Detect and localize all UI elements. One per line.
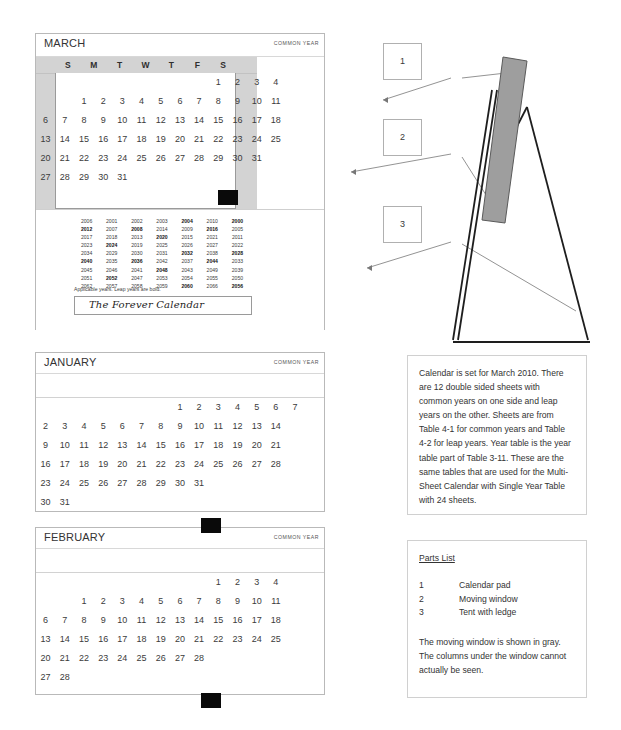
day-cell-empty (209, 668, 228, 687)
day-cell: 8 (151, 417, 170, 436)
parts-list-item: 2Moving window (419, 593, 575, 607)
day-cell-empty (36, 573, 55, 592)
february-month-label: FEBRUARY (44, 531, 105, 543)
day-cell: 30 (36, 493, 55, 512)
callout3-pointer (462, 244, 576, 311)
day-cell-empty (151, 168, 170, 187)
january-calendar-body: 1234567234567891011121314910111213141516… (36, 398, 324, 512)
dow-5: F (184, 57, 210, 73)
callout-box-1[interactable]: 1 (383, 43, 422, 80)
day-cell: 9 (228, 92, 247, 111)
dow-4: T (158, 57, 184, 73)
parts-list-rows: 1Calendar pad2Moving window3Tent with le… (419, 579, 575, 620)
day-cell-empty (228, 168, 247, 187)
day-cell: 6 (36, 111, 55, 130)
day-cell-empty (113, 73, 132, 92)
leader-line-3 (367, 242, 451, 268)
day-cell: 10 (247, 592, 266, 611)
day-cell-empty (74, 668, 93, 687)
leap-year-cell: 2032 (175, 249, 200, 257)
calendar-week-row: 234567891011121314 (36, 417, 324, 436)
common-year-cell: 2001 (99, 217, 124, 225)
common-year-cell: 2055 (200, 274, 225, 282)
day-cell: 13 (170, 611, 189, 630)
day-cell: 17 (113, 130, 132, 149)
day-cell: 5 (247, 398, 266, 417)
common-year-cell: 2034 (74, 249, 99, 257)
common-year-cell: 2023 (74, 241, 99, 249)
day-cell: 23 (228, 130, 247, 149)
day-cell-empty (132, 573, 151, 592)
day-cell-empty (209, 649, 228, 668)
day-cell: 6 (36, 611, 55, 630)
common-year-cell: 2002 (124, 217, 149, 225)
tent-assembly-drawing (325, 20, 621, 350)
common-year-cell: 2017 (74, 233, 99, 241)
day-cell: 18 (209, 436, 228, 455)
parts-item-label: Tent with ledge (459, 606, 516, 620)
day-cell: 3 (247, 73, 266, 92)
day-cell: 19 (151, 130, 170, 149)
common-year-cell: 2030 (124, 249, 149, 257)
day-cell-empty (36, 92, 55, 111)
day-cell: 3 (113, 92, 132, 111)
leap-year-cell: 2040 (74, 257, 99, 265)
day-cell-empty (228, 474, 247, 493)
day-cell: 25 (74, 474, 93, 493)
common-year-cell: 2014 (149, 225, 174, 233)
day-cell: 19 (151, 630, 170, 649)
common-year-cell: 2038 (200, 249, 225, 257)
day-cell: 27 (247, 455, 266, 474)
day-cell-empty (151, 493, 170, 512)
callout-box-2[interactable]: 2 (383, 119, 422, 156)
calendar-week-row: 1234 (36, 573, 324, 592)
day-cell: 24 (113, 149, 132, 168)
day-of-week-header-row: SMTWTFS (55, 57, 236, 73)
common-year-cell: 2010 (200, 217, 225, 225)
day-cell: 16 (228, 111, 247, 130)
day-cell: 26 (151, 649, 170, 668)
day-cell-empty (74, 398, 93, 417)
callout-1-number: 1 (384, 44, 421, 79)
day-cell-empty (170, 573, 189, 592)
day-cell: 22 (74, 649, 93, 668)
day-cell-empty (94, 493, 113, 512)
year-table-row: 2051205220472053205420552050 (74, 274, 250, 282)
year-table-row: 2017201820132020201520212011 (74, 233, 250, 241)
day-cell: 9 (94, 611, 113, 630)
dow-0: S (55, 57, 81, 73)
february-title-row: FEBRUARY COMMON YEAR (36, 528, 324, 549)
day-cell-empty (74, 573, 93, 592)
day-cell: 27 (113, 474, 132, 493)
day-cell: 4 (132, 592, 151, 611)
day-cell: 1 (170, 398, 189, 417)
day-cell: 24 (55, 474, 74, 493)
day-cell: 17 (190, 436, 209, 455)
leap-year-cell: 2044 (200, 257, 225, 265)
day-cell-empty (170, 668, 189, 687)
day-cell: 2 (190, 398, 209, 417)
common-year-cell: 2025 (149, 241, 174, 249)
common-year-cell: 2046 (99, 266, 124, 274)
day-cell: 6 (170, 592, 189, 611)
day-cell: 12 (228, 417, 247, 436)
january-title-row: JANUARY COMMON YEAR (36, 353, 324, 374)
leap-year-cell: 2004 (175, 217, 200, 225)
day-cell: 3 (55, 417, 74, 436)
day-cell: 9 (36, 436, 55, 455)
day-cell-empty (94, 573, 113, 592)
day-cell: 2 (94, 592, 113, 611)
day-cell: 2 (94, 92, 113, 111)
day-cell: 20 (36, 649, 55, 668)
day-cell: 28 (266, 455, 285, 474)
callout-box-3[interactable]: 3 (383, 206, 422, 243)
dow-1: M (81, 57, 107, 73)
day-cell: 14 (55, 130, 74, 149)
day-cell-empty (113, 668, 132, 687)
day-cell: 22 (209, 130, 228, 149)
common-year-cell: 2003 (149, 217, 174, 225)
day-cell: 15 (209, 611, 228, 630)
common-year-cell: 2041 (124, 266, 149, 274)
brand-box: The Forever Calendar (74, 296, 252, 315)
day-cell: 7 (132, 417, 151, 436)
